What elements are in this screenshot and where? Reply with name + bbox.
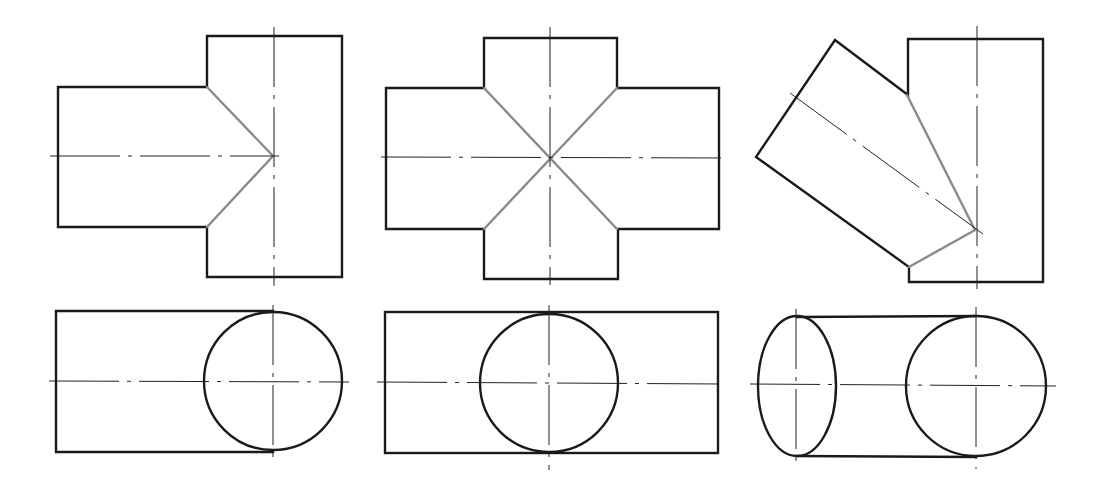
pipe-intersection-drawing xyxy=(0,0,1102,491)
background xyxy=(0,0,1102,491)
oblique-tangent-top xyxy=(797,316,976,317)
oblique-tangent-bottom xyxy=(797,456,976,457)
